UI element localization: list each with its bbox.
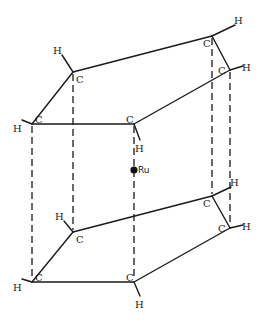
top-hydrogen-label: H [53, 45, 62, 56]
ruthenium-atom: Ru [130, 165, 149, 175]
bottom-ch-bond [64, 221, 73, 232]
bottom-hydrogen-label: H [135, 299, 144, 310]
bottom-hydrogen-label: H [13, 282, 22, 293]
top-benzene-ring: CHCHCHCHCH [13, 15, 251, 154]
top-ch-bond [62, 55, 73, 72]
top-cc-bond [134, 70, 230, 124]
top-carbon-label: C [203, 38, 211, 49]
vertical-dashed-lines [32, 38, 230, 280]
top-hydrogen-label: H [234, 15, 243, 26]
bottom-hydrogen-label: H [242, 221, 251, 232]
top-ch-bond [22, 120, 32, 124]
top-hydrogen-label: H [242, 62, 251, 73]
top-hydrogen-label: H [13, 123, 22, 134]
top-carbon-label: C [218, 65, 226, 76]
top-ch-bond [212, 25, 235, 36]
bottom-carbon-label: C [35, 272, 43, 283]
bottom-ch-bond [22, 279, 32, 282]
top-carbon-label: C [35, 114, 43, 125]
bottom-cc-bond [73, 196, 212, 232]
ruthenium-sandwich-diagram: CHCHCHCHCH CHCHCHCHCH Ru [0, 0, 270, 325]
top-hydrogen-label: H [135, 143, 144, 154]
bottom-carbon-label: C [126, 272, 134, 283]
bottom-hydrogen-label: H [230, 177, 239, 188]
top-cc-bond [73, 36, 212, 72]
top-carbon-label: C [76, 74, 84, 85]
bottom-benzene-ring: CHCHCHCHCH [13, 177, 251, 310]
bottom-carbon-label: C [218, 223, 226, 234]
bottom-cc-bond [134, 228, 230, 282]
bottom-carbon-label: C [203, 198, 211, 209]
bottom-hydrogen-label: H [55, 211, 64, 222]
top-ch-bond [134, 124, 140, 140]
ruthenium-label: Ru [138, 165, 150, 175]
top-carbon-label: C [126, 114, 134, 125]
ruthenium-dot [130, 166, 137, 173]
bottom-carbon-label: C [76, 234, 84, 245]
bottom-ch-bond [134, 282, 140, 296]
bottom-ch-bond [212, 187, 231, 196]
